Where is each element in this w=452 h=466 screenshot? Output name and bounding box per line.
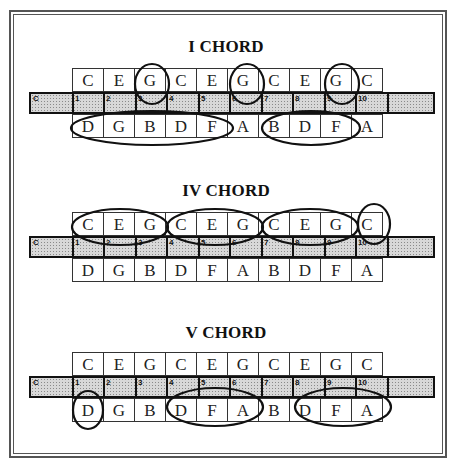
draw-note: F [320,258,352,282]
blow-note: G [227,212,259,236]
hole-number: 8 [295,238,299,247]
hole-divider [355,378,357,396]
hole-divider [198,238,200,256]
hole-number: 6 [232,238,236,247]
blow-note: E [103,352,135,376]
hole-number: 5 [201,378,205,387]
draw-note: G [103,398,135,422]
draw-note: F [196,398,228,422]
blow-note: E [289,212,321,236]
hole-number: 10 [358,94,367,103]
harmonica-hole-strip: C 1 2 3 4 5 6 7 8 9 10 [29,236,435,258]
draw-note: A [351,114,383,138]
hole-number: 7 [264,238,268,247]
hole-number: 6 [232,94,236,103]
blow-note: C [258,212,290,236]
hole-divider [324,378,326,396]
draw-note: D [72,398,104,422]
blow-note: G [134,212,166,236]
draw-note: F [320,114,352,138]
blow-notes-row: C E G C E G C E G C [72,352,382,376]
hole-divider [229,238,231,256]
hole-divider [324,238,326,256]
hole-divider [166,378,168,396]
blow-note: C [165,212,197,236]
hole-divider [166,94,168,112]
blow-note: G [320,68,352,92]
blow-note: E [289,68,321,92]
draw-note: G [103,114,135,138]
hole-divider [229,378,231,396]
hole-divider [166,238,168,256]
harmonica-hole-strip: C 1 2 3 4 5 6 7 8 9 10 [29,376,435,398]
strip-key-label: C [33,238,39,247]
hole-divider [261,94,263,112]
hole-number: 5 [201,94,205,103]
hole-divider [135,94,137,112]
hole-number: 2 [106,378,110,387]
hole-number: 9 [327,238,331,247]
hole-number: 4 [169,238,173,247]
draw-note: G [103,258,135,282]
blow-note: C [351,212,383,236]
hole-number: 6 [232,378,236,387]
section-title-i-chord: I CHORD [0,37,452,57]
hole-divider [72,94,74,112]
hole-number: 5 [201,238,205,247]
draw-note: B [134,258,166,282]
draw-notes-row: D G B D F A B D F A [72,114,382,138]
hole-divider [387,94,389,112]
draw-notes-row: D G B D F A B D F A [72,398,382,422]
harmonica-hole-strip: C 1 2 3 4 5 6 7 8 9 10 [29,92,435,114]
blow-note: C [351,352,383,376]
hole-divider [135,238,137,256]
blow-note: G [227,68,259,92]
hole-number: 1 [75,238,79,247]
draw-note: A [351,258,383,282]
hole-number: 4 [169,378,173,387]
blow-note: C [72,352,104,376]
hole-divider [103,378,105,396]
draw-note: B [134,398,166,422]
strip-key-label: C [33,378,39,387]
strip-key-label: C [33,94,39,103]
blow-note: G [134,68,166,92]
blow-note: G [320,352,352,376]
draw-note: B [258,114,290,138]
blow-note: C [258,352,290,376]
hole-divider [324,94,326,112]
hole-divider [72,378,74,396]
blow-note: E [196,352,228,376]
draw-note: D [72,114,104,138]
hole-divider [229,94,231,112]
hole-number: 7 [264,378,268,387]
blow-note: C [72,212,104,236]
hole-number: 10 [358,238,367,247]
draw-note: D [289,398,321,422]
draw-note: D [289,114,321,138]
draw-note: D [165,398,197,422]
draw-note: D [289,258,321,282]
hole-number: 8 [295,94,299,103]
section-title-iv-chord: IV CHORD [0,181,452,201]
blow-note: G [320,212,352,236]
draw-notes-row: D G B D F A B D F A [72,258,382,282]
hole-divider [103,94,105,112]
hole-divider [292,378,294,396]
blow-note: E [196,212,228,236]
hole-divider [292,94,294,112]
draw-note: A [227,398,259,422]
hole-divider [355,94,357,112]
draw-note: D [165,258,197,282]
blow-note: C [165,352,197,376]
hole-divider [292,238,294,256]
draw-note: A [227,258,259,282]
blow-note: C [72,68,104,92]
hole-divider [135,378,137,396]
hole-number: 2 [106,238,110,247]
hole-number: 9 [327,94,331,103]
hole-divider [387,378,389,396]
draw-note: F [196,114,228,138]
blow-note: G [134,352,166,376]
hole-divider [198,378,200,396]
